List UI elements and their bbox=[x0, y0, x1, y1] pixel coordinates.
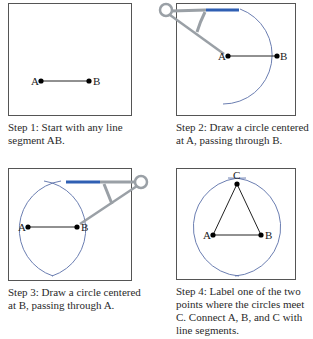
label-a: A bbox=[31, 75, 39, 87]
step-4-panel: A B C bbox=[177, 169, 296, 280]
step-1-panel: A B bbox=[9, 4, 132, 116]
label-b: B bbox=[81, 221, 88, 233]
step-2-panel: A B bbox=[160, 4, 296, 116]
label-b: B bbox=[280, 50, 287, 62]
step-3-caption: Step 3: Draw a circle centered at B, pas… bbox=[8, 286, 143, 312]
label-a: A bbox=[18, 221, 26, 233]
point-b bbox=[86, 78, 91, 83]
label-b: B bbox=[265, 229, 272, 241]
compass-icon bbox=[66, 176, 147, 224]
point-c bbox=[234, 181, 239, 186]
step-2-caption: Step 2: Draw a circle centered at A, pas… bbox=[176, 121, 311, 147]
point-a bbox=[38, 78, 43, 83]
label-b: B bbox=[93, 75, 100, 87]
step-4-caption: Step 4: Label one of the two points wher… bbox=[176, 285, 311, 337]
label-c: C bbox=[233, 169, 240, 181]
step-3-panel: A B bbox=[9, 169, 148, 281]
label-a: A bbox=[203, 229, 211, 241]
label-a: A bbox=[218, 50, 226, 62]
step-1-caption: Step 1: Start with any line segment AB. bbox=[8, 121, 138, 147]
compass-icon bbox=[160, 4, 239, 54]
